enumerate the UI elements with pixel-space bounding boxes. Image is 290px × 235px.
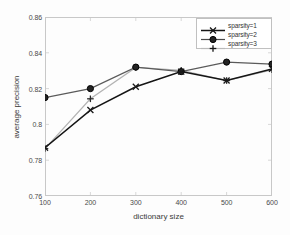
x-tick-label: 300 <box>130 199 141 206</box>
legend-item-2: sparsity=2 <box>200 30 268 39</box>
circle-marker <box>200 30 226 39</box>
x-marker <box>200 21 226 30</box>
legend: sparsity=1sparsity=2sparsity=3 <box>196 18 272 49</box>
x-axis-tick-labels: 100200300400500600 <box>45 199 272 211</box>
y-axis-label: average precision <box>12 75 21 138</box>
y-tick-label: 0.78 <box>29 157 42 164</box>
x-tick-label: 500 <box>221 199 232 206</box>
y-tick-label: 0.84 <box>29 49 42 56</box>
legend-label: sparsity=2 <box>228 31 257 38</box>
y-tick-label: 0.86 <box>29 14 42 21</box>
x-tick-label: 100 <box>39 199 50 206</box>
legend-label: sparsity=3 <box>228 40 257 47</box>
legend-label: sparsity=1 <box>228 22 257 29</box>
x-tick-label: 400 <box>175 199 186 206</box>
legend-item-1: sparsity=1 <box>200 21 268 30</box>
y-axis-label-wrapper: average precision <box>5 18 23 197</box>
figure: 0.760.780.80.820.840.86 1002003004005006… <box>0 0 290 235</box>
y-tick-label: 0.82 <box>29 85 42 92</box>
x-tick-label: 200 <box>85 199 96 206</box>
series-sparsity=1 <box>45 66 272 151</box>
y-tick-label: 0.8 <box>33 121 42 128</box>
plus-marker <box>200 39 226 48</box>
x-axis-label: dictionary size <box>45 212 272 221</box>
x-tick-label: 600 <box>266 199 277 206</box>
legend-item-3: sparsity=3 <box>200 39 268 48</box>
